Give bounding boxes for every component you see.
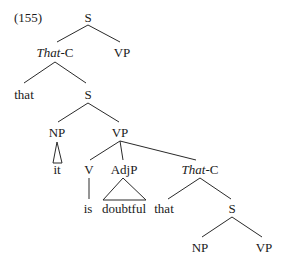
leaf-doubtful: doubtful xyxy=(102,201,146,216)
node-s-lower: S xyxy=(228,201,235,216)
node-adjp: AdjP xyxy=(111,162,138,177)
edge-s-np xyxy=(58,103,88,122)
edge-vp-v xyxy=(90,141,120,160)
edge-s-thatc xyxy=(57,25,88,42)
node-np-lower: NP xyxy=(192,240,209,255)
edge-s-vp-lower xyxy=(232,217,262,237)
edge-thatc-that xyxy=(24,62,55,83)
node-vp: VP xyxy=(112,125,129,140)
that-c-lower-italic: That xyxy=(182,162,206,177)
syntax-tree-diagram: (155) S That-C VP that S NP VP it V AdjP… xyxy=(0,0,293,265)
node-vp-lower: VP xyxy=(256,240,273,255)
example-number: (155) xyxy=(14,10,42,25)
edge-thatc-that-lower xyxy=(168,178,200,199)
leaf-is: is xyxy=(84,201,93,216)
leaf-it: it xyxy=(53,162,61,177)
edge-s-vp xyxy=(88,25,120,42)
edge-vp-thatc xyxy=(120,141,196,160)
node-that-c-lower: That-C xyxy=(182,162,219,177)
that-c-lower-suffix: -C xyxy=(205,162,218,177)
that-c-italic: That xyxy=(37,45,61,60)
node-np: NP xyxy=(49,125,66,140)
edge-thatc-s xyxy=(55,62,86,83)
edge-s-np-lower xyxy=(202,217,232,237)
node-s-root: S xyxy=(84,10,91,25)
that-c-suffix: -C xyxy=(60,45,73,60)
cropped-text-line xyxy=(0,0,293,3)
edge-thatc-s-lower xyxy=(200,178,231,199)
edge-s-vp xyxy=(88,103,119,122)
node-that-c: That-C xyxy=(37,45,74,60)
node-v: V xyxy=(84,162,94,177)
adjp-triangle xyxy=(103,178,146,200)
edge-vp-adjp xyxy=(120,141,123,160)
node-vp-top: VP xyxy=(114,45,131,60)
leaf-that-lower: that xyxy=(154,201,174,216)
node-s-embedded: S xyxy=(84,87,91,102)
np-triangle xyxy=(53,142,62,163)
leaf-that: that xyxy=(14,87,34,102)
